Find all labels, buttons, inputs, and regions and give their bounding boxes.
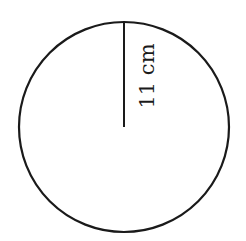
circle-diagram: 11 cm [0,0,246,241]
radius-label: 11 cm [135,43,159,108]
